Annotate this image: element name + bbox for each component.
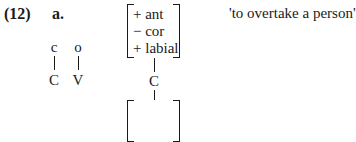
melody-o: o xyxy=(74,40,82,55)
skeleton-V: V xyxy=(73,73,84,88)
association-line xyxy=(154,58,155,72)
feature-ant: + ant xyxy=(133,7,164,22)
lower-left-bracket xyxy=(127,100,134,142)
lower-right-bracket xyxy=(173,100,180,142)
example-number: (12) xyxy=(4,6,31,22)
melody-c: c xyxy=(51,40,58,55)
association-line xyxy=(154,90,155,100)
association-line xyxy=(54,56,55,70)
example-gloss: 'to overtake a person' xyxy=(229,6,356,21)
feature-cor: − cor xyxy=(133,24,164,39)
association-line xyxy=(78,56,79,70)
skeleton-C-right: C xyxy=(149,74,159,89)
example-sublabel: a. xyxy=(52,6,64,22)
skeleton-C: C xyxy=(49,73,59,88)
feature-labial: + labial xyxy=(133,41,179,56)
